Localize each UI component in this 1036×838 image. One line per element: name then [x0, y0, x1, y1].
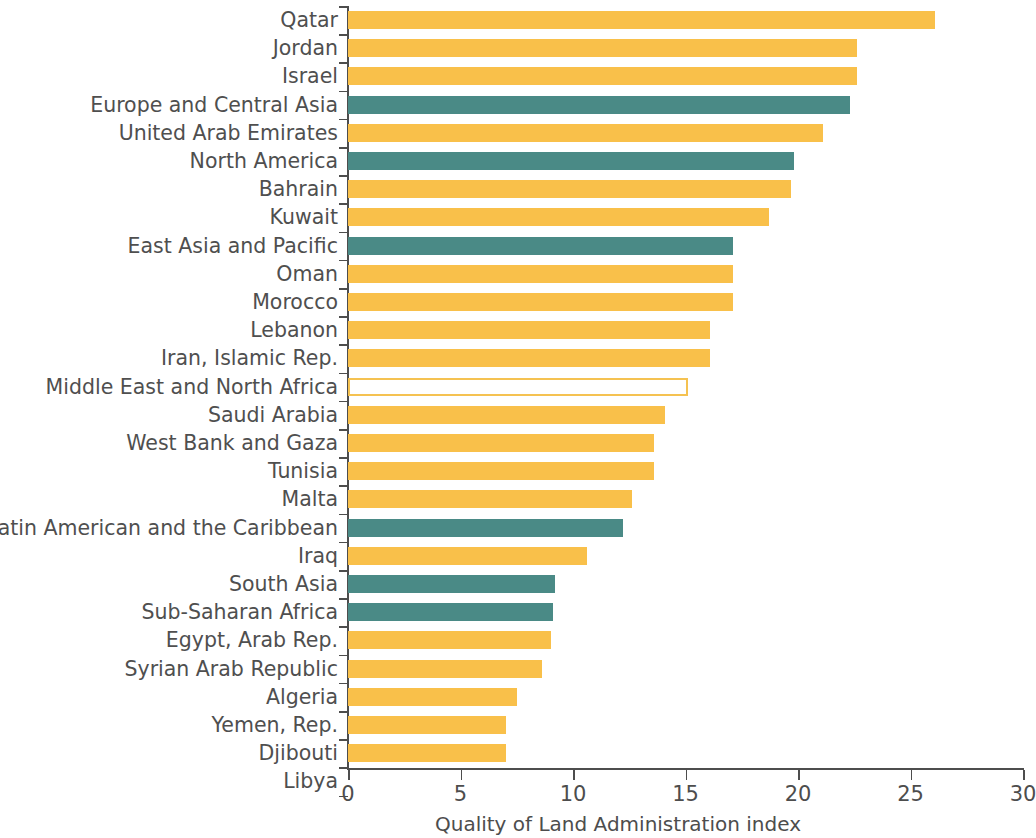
bar-country[interactable] — [348, 39, 857, 57]
bar-region[interactable] — [348, 152, 794, 170]
bar-region[interactable] — [348, 575, 555, 593]
bar-region[interactable] — [348, 519, 623, 537]
bar-row: Europe and Central Asia — [348, 91, 1023, 119]
bar-row: Tunisia — [348, 457, 1023, 485]
bar-country[interactable] — [348, 265, 733, 283]
y-axis-tick — [339, 739, 348, 741]
bar-country[interactable] — [348, 744, 506, 762]
bar-row: East Asia and Pacific — [348, 232, 1023, 260]
category-label: Libya — [0, 767, 338, 795]
bar-country[interactable] — [348, 716, 506, 734]
y-axis-tick — [339, 373, 348, 375]
bar-row: North America — [348, 147, 1023, 175]
x-axis-tick-label: 25 — [897, 782, 924, 806]
category-label: Yemen, Rep. — [0, 711, 338, 739]
category-label: East Asia and Pacific — [0, 232, 338, 260]
bar-country[interactable] — [348, 688, 517, 706]
category-label: Lebanon — [0, 316, 338, 344]
category-label: Qatar — [0, 6, 338, 34]
bar-row: Kuwait — [348, 203, 1023, 231]
bar-region[interactable] — [348, 237, 733, 255]
bar-row: Israel — [348, 62, 1023, 90]
y-axis-tick — [339, 429, 348, 431]
bar-country[interactable] — [348, 631, 551, 649]
bar-row: Iraq — [348, 542, 1023, 570]
bar-row: Egypt, Arab Rep. — [348, 626, 1023, 654]
bar-country[interactable] — [348, 547, 587, 565]
bar-row: Oman — [348, 260, 1023, 288]
y-axis-tick — [339, 570, 348, 572]
x-axis-tick — [911, 770, 913, 780]
bar-country[interactable] — [348, 434, 654, 452]
bar-row: West Bank and Gaza — [348, 429, 1023, 457]
category-label: West Bank and Gaza — [0, 429, 338, 457]
x-axis-tick-label: 15 — [672, 782, 699, 806]
bar-row: Yemen, Rep. — [348, 711, 1023, 739]
y-axis-tick — [339, 147, 348, 149]
bar-row: Morocco — [348, 288, 1023, 316]
category-label: United Arab Emirates — [0, 119, 338, 147]
category-label: Saudi Arabia — [0, 401, 338, 429]
bar-row: South Asia — [348, 570, 1023, 598]
bar-row: Djibouti — [348, 739, 1023, 767]
x-axis-tick-label: 10 — [560, 782, 587, 806]
bar-row: Iran, Islamic Rep. — [348, 344, 1023, 372]
y-axis-tick — [339, 485, 348, 487]
x-axis-title-text: Quality of Land Administration index — [235, 812, 801, 836]
category-label: South Asia — [0, 570, 338, 598]
category-label: Djibouti — [0, 739, 338, 767]
x-axis-tick-label: 0 — [341, 782, 354, 806]
y-axis-tick — [339, 626, 348, 628]
y-axis-tick — [339, 34, 348, 36]
bar-country[interactable] — [348, 180, 791, 198]
bar-row: Syrian Arab Republic — [348, 655, 1023, 683]
bar-country[interactable] — [348, 321, 710, 339]
bar-row: Bahrain — [348, 175, 1023, 203]
bar-row: Middle East and North Africa — [348, 373, 1023, 401]
category-label: Israel — [0, 62, 338, 90]
plot-area: QatarJordanIsraelEurope and Central Asia… — [348, 6, 1023, 768]
category-label: Iran, Islamic Rep. — [0, 344, 338, 372]
bar-country[interactable] — [348, 349, 710, 367]
y-axis-tick — [339, 175, 348, 177]
bar-country[interactable] — [348, 208, 769, 226]
category-label: Oman — [0, 260, 338, 288]
bar-region[interactable] — [348, 96, 850, 114]
bar-country[interactable] — [348, 660, 542, 678]
category-label: Algeria — [0, 683, 338, 711]
x-axis-tick-label: 5 — [454, 782, 467, 806]
y-axis-tick — [339, 6, 348, 8]
y-axis-tick — [339, 542, 348, 544]
bar-country[interactable] — [348, 67, 857, 85]
x-axis-tick — [1023, 770, 1025, 780]
bar-highlight[interactable] — [348, 378, 688, 396]
y-axis-tick — [339, 203, 348, 205]
bar-row: Qatar — [348, 6, 1023, 34]
x-axis-tick-label: 20 — [785, 782, 812, 806]
y-axis-tick — [339, 683, 348, 685]
x-axis-tick — [348, 770, 350, 780]
bar-country[interactable] — [348, 293, 733, 311]
bar-country[interactable] — [348, 124, 823, 142]
bar-row: United Arab Emirates — [348, 119, 1023, 147]
bar-country[interactable] — [348, 11, 935, 29]
bar-country[interactable] — [348, 406, 665, 424]
y-axis-tick — [339, 598, 348, 600]
y-axis-tick — [339, 260, 348, 262]
category-label: Malta — [0, 485, 338, 513]
y-axis-tick — [339, 514, 348, 516]
category-label: Jordan — [0, 34, 338, 62]
x-axis-title: Quality of Land Administration index — [0, 812, 1036, 836]
category-label: Tunisia — [0, 457, 338, 485]
y-axis-tick — [339, 232, 348, 234]
quality-of-land-administration-bar-chart: QatarJordanIsraelEurope and Central Asia… — [0, 0, 1036, 838]
category-label: Kuwait — [0, 203, 338, 231]
bar-country[interactable] — [348, 462, 654, 480]
category-label: Europe and Central Asia — [0, 91, 338, 119]
bar-row: Lebanon — [348, 316, 1023, 344]
bar-region[interactable] — [348, 603, 553, 621]
y-axis-tick — [339, 316, 348, 318]
bar-country[interactable] — [348, 490, 632, 508]
x-axis-tick — [461, 770, 463, 780]
x-axis-tick-label: 30 — [1010, 782, 1036, 806]
